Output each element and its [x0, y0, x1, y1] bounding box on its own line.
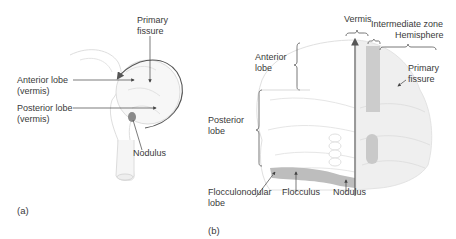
label-hemisphere: Hemisphere: [395, 30, 444, 41]
panel-tag-a: (a): [17, 205, 29, 216]
label-posterior-lobe-a: Posterior lobe (vermis): [17, 103, 73, 125]
label-posterior-lobe-b: Posterior lobe: [208, 115, 244, 137]
label-anterior-lobe-b: Anterior lobe: [255, 52, 287, 74]
label-vermis: Vermis: [344, 14, 372, 25]
label-flocculonodular-lobe: Flocculonodular lobe: [208, 187, 272, 209]
label-intermediate-zone: Intermediate zone: [371, 19, 443, 30]
label-nodulus-b: Nodulus: [333, 187, 366, 198]
label-flocculus: Flocculus: [282, 187, 320, 198]
label-primary-fissure-a: Primary fissure: [137, 15, 168, 37]
panel-tag-b: (b): [208, 225, 220, 236]
label-anterior-lobe-a: Anterior lobe (vermis): [17, 75, 68, 97]
label-nodulus-a: Nodulus: [133, 148, 166, 159]
label-primary-fissure-b: Primary fissure: [408, 63, 439, 85]
